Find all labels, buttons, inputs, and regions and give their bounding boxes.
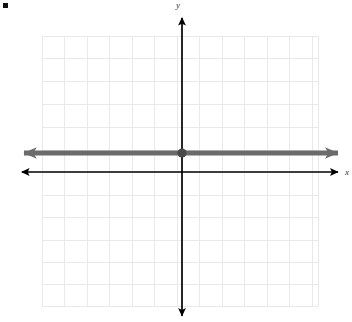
coordinate-plane-svg — [0, 0, 352, 322]
graph-figure: y x — [0, 0, 352, 322]
problem-bullet-icon — [3, 3, 8, 8]
x-axis-label: x — [345, 168, 349, 177]
y-axis-label: y — [176, 1, 180, 10]
grid-lines — [42, 36, 318, 306]
y-intercept-point — [177, 148, 186, 157]
